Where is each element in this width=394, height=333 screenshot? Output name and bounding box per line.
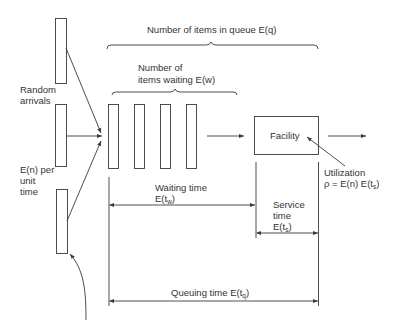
queuing-time-label: Queuing time E(tq) (171, 287, 249, 301)
waiting-count-label-line2: items waiting E(w) (138, 74, 215, 85)
waiting-count-label-line1: Number of (138, 62, 182, 73)
service-time-label: Service time E(ts) (273, 199, 305, 235)
arrival-arrow-3 (67, 141, 101, 221)
queue-count-brace (107, 42, 318, 49)
waiting-count-brace (112, 89, 237, 95)
arrival-source-2 (56, 105, 67, 167)
waiting-time-expr-close: ) (172, 193, 175, 204)
service-time-expr-close: ) (288, 221, 291, 232)
utilization-pointer (307, 137, 345, 166)
random-arrivals-line2: arrivals (20, 95, 51, 106)
utilization-formula: ρ = E(n) E(ts) (324, 178, 379, 192)
queue-slot-1 (109, 105, 119, 169)
utilization-line1: Utilization (324, 167, 379, 178)
utilization-label: Utilization ρ = E(n) E(ts) (324, 167, 379, 192)
service-time-line1: Service (273, 199, 305, 210)
arrival-rate-line1: E(n) per (20, 164, 54, 175)
queue-slot-3 (161, 105, 171, 169)
waiting-time-line1: Waiting time (155, 182, 207, 193)
arrival-arrow-1 (66, 48, 101, 133)
service-time-expr-text: E(t (273, 221, 285, 232)
waiting-time-expr-text: E(t (155, 193, 167, 204)
waiting-time-expr: E(tw) (155, 193, 207, 207)
queue-count-label: Number of items in queue E(q) (147, 24, 276, 35)
service-time-line2: time (273, 210, 305, 221)
queue-slot-4 (187, 105, 197, 169)
arrival-rate-line3: time (20, 186, 38, 197)
queue-slot-2 (135, 105, 145, 169)
random-arrivals-line1: Random (20, 84, 56, 95)
queuing-time-close: ) (246, 287, 249, 298)
source-inflow-arrow (70, 254, 86, 320)
service-time-expr: E(ts) (273, 221, 305, 235)
arrival-source-1 (56, 19, 67, 84)
utilization-formula-text: ρ = E(n) E(t (324, 178, 373, 189)
facility-label: Facility (270, 130, 300, 141)
queuing-time-text: Queuing time E(t (171, 287, 242, 298)
arrival-source-3 (57, 190, 68, 254)
arrival-rate-line2: unit (20, 175, 35, 186)
utilization-formula-close: ) (376, 178, 379, 189)
waiting-time-label: Waiting time E(tw) (155, 182, 207, 207)
